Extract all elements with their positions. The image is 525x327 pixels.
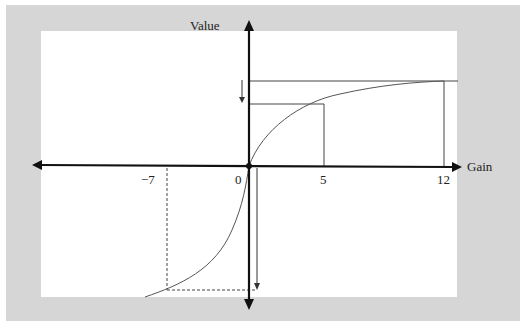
value-function-diagram — [0, 0, 525, 327]
y-axis-down-arrowhead — [244, 299, 254, 310]
long-down-arrow — [254, 168, 260, 290]
x-axis-right-arrowhead — [452, 162, 462, 172]
tick-label-neg7: −7 — [141, 173, 155, 186]
value-curve — [145, 81, 444, 297]
tick-label-0: 0 — [235, 173, 242, 186]
y-axis-label: Value — [190, 19, 220, 32]
x-axis-label: Gain — [467, 160, 492, 173]
x-axis-left-arrowhead — [32, 160, 42, 170]
tick-label-5: 5 — [320, 173, 327, 186]
small-down-arrow — [239, 80, 245, 103]
guide-gain-5 — [249, 104, 324, 166]
y-axis-up-arrowhead — [244, 20, 254, 31]
guide-loss-7 — [167, 168, 257, 290]
tick-label-12: 12 — [437, 173, 450, 186]
origin-dot — [246, 163, 252, 169]
guide-gain-12 — [249, 81, 458, 166]
